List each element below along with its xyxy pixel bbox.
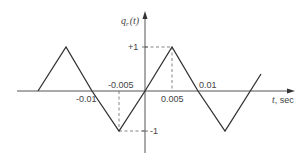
y-tick-label-neg-1: -1	[150, 126, 158, 136]
y-axis-arrow-icon	[143, 11, 148, 19]
y-axis-label: qr(t)	[121, 15, 140, 28]
y-tick-label-pos-1: +1	[128, 42, 138, 52]
x-axis-label: t, sec	[272, 94, 294, 105]
x-axis-arrow-icon	[287, 89, 295, 94]
x-tick-label-neg-0-005: -0.005	[108, 80, 134, 90]
x-tick-label-0-005: 0.005	[161, 94, 184, 104]
x-tick-label-neg-0-01: -0.01	[76, 94, 97, 104]
waveform-diagram: qr(t) t, sec -0.01 -0.005 0.005 0.01 +1 …	[0, 0, 304, 166]
x-tick-label-0-01: 0.01	[199, 80, 217, 90]
triangular-waveform	[38, 47, 261, 131]
